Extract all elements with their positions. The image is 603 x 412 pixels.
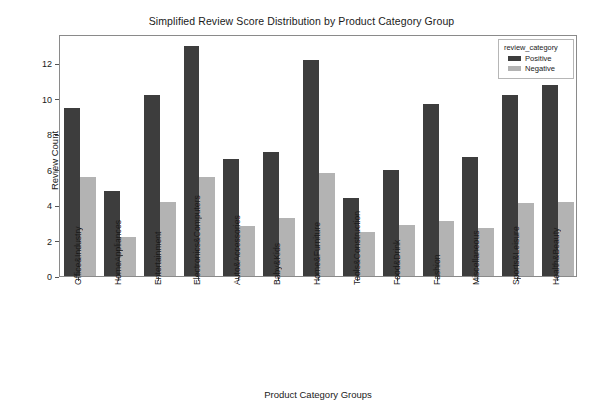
legend-entries: PositiveNegative <box>504 54 568 73</box>
x-axis-tick-label: Home&Furniture <box>312 222 322 285</box>
x-axis-tick-label: Health&Beauty <box>551 228 561 285</box>
legend-item-label: Negative <box>525 64 555 73</box>
x-axis-tick-label: Office&Industry <box>73 226 83 285</box>
chart-title: Simplified Review Score Distribution by … <box>0 15 603 27</box>
y-axis-tick-label: 12 <box>42 59 52 69</box>
legend: review_category PositiveNegative <box>498 39 574 79</box>
x-axis-tick-label: Fashion <box>432 254 442 285</box>
x-axis-tick-label: Electronics&Computers <box>192 195 202 285</box>
x-axis-tick-label: Tools&Construction <box>352 211 362 285</box>
y-axis-tick-label: 0 <box>47 272 52 282</box>
legend-item-negative[interactable]: Negative <box>508 64 568 73</box>
x-axis-tick-label: Food&Drink <box>392 240 402 285</box>
bar-group <box>423 36 455 276</box>
x-axis-tick-label: Auto&Accessories <box>232 215 242 285</box>
legend-swatch-icon <box>508 66 521 71</box>
x-axis-label: Product Category Groups <box>59 389 577 400</box>
legend-item-label: Positive <box>525 54 552 63</box>
legend-item-positive[interactable]: Positive <box>508 54 568 63</box>
legend-swatch-icon <box>508 56 521 61</box>
bar-positive <box>423 104 439 276</box>
bar-group <box>263 36 295 276</box>
x-axis-tick-label: HomeAppliances <box>113 220 123 285</box>
x-axis: Office&IndustryHomeAppliancesEntertainme… <box>59 277 577 387</box>
x-axis-tick-label: Baby&Kids <box>272 243 282 285</box>
x-axis-tick-label: Entertainment <box>153 231 163 285</box>
legend-title: review_category <box>504 43 568 52</box>
chart-figure: Simplified Review Score Distribution by … <box>0 0 603 412</box>
y-axis-tick-label: 2 <box>47 237 52 247</box>
y-axis-label: Review Count <box>49 101 60 221</box>
x-axis-tick-label: Sports&Leisure <box>511 226 521 285</box>
x-axis-tick-label: Miscellaneous <box>471 231 481 285</box>
